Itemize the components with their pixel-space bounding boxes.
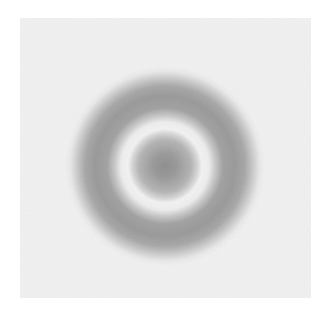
image-frame (20, 18, 311, 298)
noise-overlay (20, 18, 311, 298)
ring-pattern-image (20, 18, 311, 298)
